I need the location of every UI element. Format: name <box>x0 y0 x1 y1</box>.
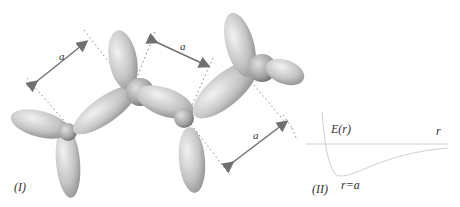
figure: a a a (I) (II) E(r) r r=a <box>0 0 460 207</box>
energy-plot <box>306 112 448 176</box>
minimum-label: r=a <box>341 178 360 193</box>
panel-II-label: (II) <box>312 182 328 197</box>
x-axis-label: r <box>436 124 441 139</box>
atom-1 <box>8 78 144 199</box>
distance-label-2: a <box>180 40 186 52</box>
distance-label-1: a <box>59 50 65 62</box>
y-axis-label: E(r) <box>331 122 351 137</box>
lattice-diagram <box>0 0 460 207</box>
panel-I-label: (I) <box>14 180 26 195</box>
distance-label-3: a <box>253 129 259 141</box>
